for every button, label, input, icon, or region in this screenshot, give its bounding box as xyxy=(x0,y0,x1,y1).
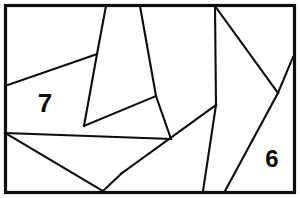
puzzle-figure: 76 xyxy=(0,0,300,198)
region-label-6: 6 xyxy=(265,145,278,172)
puzzle-canvas: 76 xyxy=(0,0,300,198)
upper-right-steep xyxy=(215,6,216,105)
region-label-7: 7 xyxy=(38,88,52,118)
